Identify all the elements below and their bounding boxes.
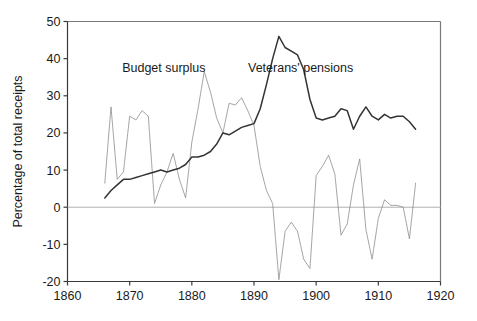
y-tick-label: 40 [47,52,61,66]
annotation-veterans-pensions: Veterans' pensions [248,61,353,75]
line-chart: -20-1001020304050 1860187018801890190019… [0,0,477,321]
y-tick-label: 0 [54,201,61,215]
annotation-budget-surplus: Budget surplus [122,61,205,75]
x-tick-label: 1860 [54,289,82,303]
x-tick-label: 1900 [302,289,330,303]
chart-figure: -20-1001020304050 1860187018801890190019… [0,0,477,321]
x-tick-label: 1920 [427,289,455,303]
y-tick-label: 20 [47,126,61,140]
y-tick-label: 50 [47,15,61,29]
y-tick-label: -10 [42,238,60,252]
y-tick-label: -20 [42,275,60,289]
x-axis-ticks: 1860187018801890190019101920 [54,282,455,303]
y-tick-label: 10 [47,164,61,178]
x-tick-label: 1870 [116,289,144,303]
x-tick-label: 1910 [364,289,392,303]
x-tick-label: 1880 [178,289,206,303]
y-axis-title: Percentage of total receipts [11,75,25,227]
series-line-budget-surplus [105,72,416,280]
x-tick-label: 1890 [240,289,268,303]
y-axis-ticks: -20-1001020304050 [42,15,67,289]
series-annotations: Budget surplusVeterans' pensions [122,61,353,75]
y-tick-label: 30 [47,89,61,103]
